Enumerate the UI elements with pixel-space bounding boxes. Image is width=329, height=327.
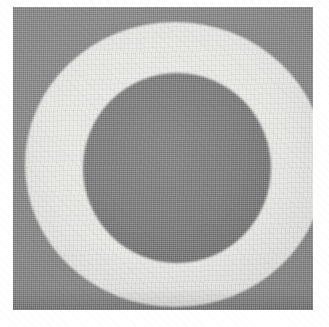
figure-caption bbox=[13, 312, 313, 325]
photo-plate bbox=[13, 7, 313, 310]
scanned-page bbox=[0, 0, 329, 327]
inner-dark-disk bbox=[83, 73, 271, 263]
